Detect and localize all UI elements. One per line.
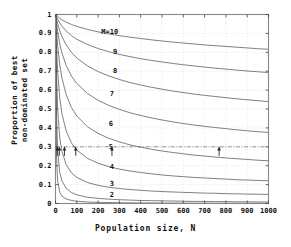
y-tick-label: 0.8 (30, 48, 52, 56)
curve-label: 8 (113, 67, 117, 75)
y-tick-label: 0.4 (30, 124, 52, 132)
y-tick-label: 0 (30, 200, 52, 208)
y-tick-label: 1 (30, 11, 52, 19)
curve-label: 3 (110, 180, 114, 188)
curve-label: 9 (113, 48, 117, 56)
curve-label: 7 (110, 90, 114, 98)
curve-label: 5 (109, 143, 113, 151)
y-tick-label: 0.7 (30, 67, 52, 75)
y-tick-label: 0.9 (30, 29, 52, 37)
threshold-arrows (55, 147, 220, 156)
curve-label: 4 (110, 163, 114, 171)
curve-label: M=10 (101, 28, 118, 36)
y-axis-label-line2: non-dominated set (20, 58, 29, 143)
curve-label: 6 (109, 120, 113, 128)
y-axis-label-line1: Proportion of best (10, 55, 19, 145)
y-tick-label: 0.1 (30, 181, 52, 189)
y-tick-label: 0.2 (30, 162, 52, 170)
x-axis-label: Population size, N (0, 224, 291, 233)
y-tick-label: 0.6 (30, 86, 52, 94)
x-tick-label: 1000 (254, 207, 284, 215)
y-tick-label: 0.3 (30, 143, 52, 151)
y-axis-label: Proportion of best non-dominated set (10, 4, 29, 196)
chart-figure: Proportion of best non-dominated set Pop… (0, 0, 291, 247)
y-tick-label: 0.5 (30, 105, 52, 113)
curve-label: 2 (110, 191, 114, 199)
